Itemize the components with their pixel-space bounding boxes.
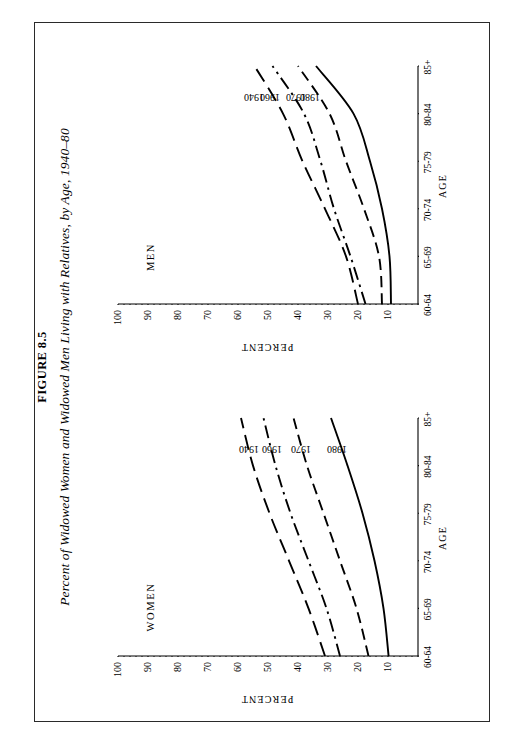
rotated-figure-wrapper: FIGURE 8.5 Percent of Widowed Women and … [0, 0, 513, 734]
x-tick-label: 80-84 [423, 104, 433, 126]
x-axis-title: AGE [437, 526, 448, 550]
figure-title: Percent of Widowed Women and Widowed Men… [57, 17, 73, 717]
x-tick-label: 70-74 [423, 199, 433, 221]
y-tick-label: 70 [201, 662, 212, 672]
y-tick-label: 10 [381, 310, 392, 320]
y-tick-label: 50 [261, 310, 272, 320]
figure-number: FIGURE 8.5 [35, 17, 50, 717]
series-label-1960: 1960 [260, 92, 280, 103]
x-tick-label: 60-64 [423, 294, 433, 316]
x-tick-label: 75-79 [423, 151, 433, 173]
figure-heading: FIGURE 8.5 Percent of Widowed Women and … [35, 17, 73, 717]
x-tick-label: 65-69 [423, 246, 433, 268]
y-tick-label: 100 [111, 310, 122, 325]
series-label-1940: 1940 [239, 444, 259, 455]
series-label-1980: 1980 [326, 444, 346, 455]
panel-women: WOMEN 10203040506070809010060-6465-6970-… [101, 401, 471, 701]
y-tick-label: 80 [171, 310, 182, 320]
plot-area-women: 10203040506070809010060-6465-6970-7475-7… [117, 419, 417, 657]
y-axis-title: PERCENT [240, 694, 293, 705]
x-axis-title: AGE [437, 174, 448, 198]
y-tick-label: 70 [201, 310, 212, 320]
y-tick-label: 50 [261, 662, 272, 672]
x-tick-label: 75-79 [423, 503, 433, 525]
y-tick-label: 90 [141, 310, 152, 320]
panel-men: MEN 10203040506070809010060-6465-6970-74… [101, 49, 471, 349]
y-tick-label: 80 [171, 662, 182, 672]
y-tick-label: 30 [321, 310, 332, 320]
series-label-1980: 1980 [300, 92, 320, 103]
y-tick-label: 20 [351, 310, 362, 320]
y-tick-label: 20 [351, 662, 362, 672]
y-axis-title: PERCENT [240, 342, 293, 353]
x-tick-label: 85+ [423, 60, 433, 75]
x-tick-label: 65-69 [423, 598, 433, 620]
x-tick-label: 80-84 [423, 456, 433, 478]
plot-area-men: 10203040506070809010060-6465-6970-7475-7… [117, 67, 417, 305]
series-label-1960: 1960 [261, 444, 281, 455]
series-line-1980 [316, 66, 391, 304]
y-tick-label: 40 [291, 662, 302, 672]
figure-canvas: FIGURE 8.5 Percent of Widowed Women and … [29, 17, 485, 717]
y-tick-label: 90 [141, 662, 152, 672]
x-tick-label: 70-74 [423, 551, 433, 573]
y-tick-label: 100 [111, 662, 122, 677]
y-tick-label: 40 [291, 310, 302, 320]
y-tick-label: 60 [231, 310, 242, 320]
x-tick-label: 85+ [423, 412, 433, 427]
y-tick-label: 10 [381, 662, 392, 672]
x-tick-label: 60-64 [423, 646, 433, 668]
y-tick-label: 60 [231, 662, 242, 672]
y-tick-label: 30 [321, 662, 332, 672]
series-label-1970: 1970 [291, 444, 311, 455]
